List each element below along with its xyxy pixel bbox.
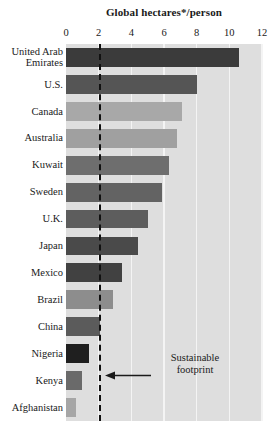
bar-china	[66, 317, 100, 336]
bar-row	[66, 286, 262, 313]
category-label-kenya: Kenya	[0, 367, 63, 394]
bar-row	[66, 233, 262, 260]
category-label-mexico: Mexico	[0, 259, 63, 286]
bar-united-arab-emirates	[66, 48, 239, 67]
category-label-australia: Australia	[0, 125, 63, 152]
category-label-nigeria: Nigeria	[0, 340, 63, 367]
category-axis-labels: United Arab EmiratesU.S.CanadaAustraliaK…	[0, 44, 63, 421]
category-label-brazil: Brazil	[0, 286, 63, 313]
x-tick-12: 12	[257, 26, 268, 39]
bar-row	[66, 98, 262, 125]
x-axis-tick-labels: 024681012	[0, 26, 277, 40]
category-label-kuwait: Kuwait	[0, 152, 63, 179]
category-label-japan: Japan	[0, 233, 63, 260]
sustainable-footprint-arrow-icon	[105, 371, 152, 380]
bar-row	[66, 394, 262, 421]
sustainable-footprint-annotation-label: Sustainable footprint	[152, 352, 238, 376]
bar-row	[66, 206, 262, 233]
x-tick-6: 6	[161, 26, 166, 39]
bar-brazil	[66, 290, 113, 309]
category-label-u-s: U.S.	[0, 71, 63, 98]
bar-row	[66, 44, 262, 71]
bar-row	[66, 259, 262, 286]
bar-mexico	[66, 263, 122, 282]
bar-afghanistan	[66, 398, 76, 417]
x-tick-8: 8	[194, 26, 199, 39]
bar-row	[66, 152, 262, 179]
bar-nigeria	[66, 344, 89, 363]
chart-title: Global hectares*/person	[66, 6, 262, 19]
category-label-china: China	[0, 313, 63, 340]
category-label-canada: Canada	[0, 98, 63, 125]
bar-row	[66, 179, 262, 206]
category-label-sweden: Sweden	[0, 179, 63, 206]
bar-kenya	[66, 371, 82, 390]
sustainable-footprint-threshold-line	[99, 44, 101, 421]
category-label-u-k: U.K.	[0, 206, 63, 233]
category-label-united-arab-emirates: United Arab Emirates	[0, 44, 63, 71]
bar-row	[66, 71, 262, 98]
bar-row	[66, 125, 262, 152]
bar-row	[66, 313, 262, 340]
category-label-afghanistan: Afghanistan	[0, 394, 63, 421]
bar-u-k	[66, 210, 148, 229]
global-footprint-bar-chart: Global hectares*/person 024681012 United…	[0, 0, 277, 428]
bar-kuwait	[66, 156, 169, 175]
x-tick-2: 2	[96, 26, 101, 39]
bar-u-s	[66, 75, 197, 94]
bar-australia	[66, 129, 177, 148]
x-tick-0: 0	[63, 26, 68, 39]
x-tick-10: 10	[224, 26, 235, 39]
bar-canada	[66, 102, 182, 121]
x-tick-4: 4	[129, 26, 134, 39]
bar-sweden	[66, 183, 162, 202]
bar-japan	[66, 237, 138, 256]
